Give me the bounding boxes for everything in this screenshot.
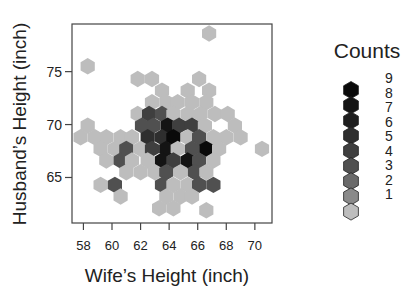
y-axis-label: Husband’s Height (inch) (9, 23, 30, 225)
legend-swatch (344, 173, 359, 190)
x-axis-label: Wife’s Height (inch) (85, 265, 249, 286)
y-tick-label: 70 (46, 117, 62, 133)
x-tick-label: 58 (76, 238, 90, 253)
hex-cell (192, 71, 206, 87)
hex-cell (131, 71, 145, 87)
legend-swatch (344, 158, 359, 175)
y-axis-ticks: 657075 (46, 64, 72, 186)
x-tick-label: 70 (248, 238, 262, 253)
hex-cell (199, 202, 213, 218)
hexbin-chart: 58606264666870 657075 Wife’s Height (inc… (0, 0, 420, 297)
x-tick-label: 60 (105, 238, 119, 253)
x-tick-label: 68 (219, 238, 233, 253)
x-tick-label: 64 (162, 238, 176, 253)
hexbin-cells (74, 25, 270, 218)
x-axis-ticks: 58606264666870 (76, 223, 262, 253)
legend-swatch (344, 82, 359, 99)
y-tick-label: 65 (46, 169, 62, 185)
y-tick-label: 75 (46, 64, 62, 80)
legend-swatch (344, 112, 359, 129)
x-tick-label: 62 (133, 238, 147, 253)
legend-swatch (344, 127, 359, 144)
legend-label: 1 (385, 186, 393, 202)
hex-cell (94, 177, 108, 193)
hex-cell (81, 58, 95, 74)
legend-swatch (344, 188, 359, 205)
x-tick-label: 66 (190, 238, 204, 253)
legend-swatch (344, 97, 359, 114)
legend-swatch (344, 203, 359, 220)
legend: 987654321 (344, 70, 394, 220)
hex-cell (255, 141, 269, 157)
legend-swatch (344, 142, 359, 159)
hex-cell (202, 25, 216, 41)
hex-cell (145, 71, 159, 87)
legend-title: Counts (334, 39, 401, 62)
